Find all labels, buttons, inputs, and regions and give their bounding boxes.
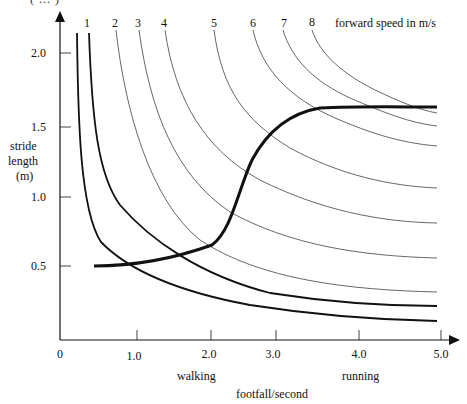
y-ticks <box>60 53 71 266</box>
speed-label-5: 5 <box>211 17 217 29</box>
curve-speed-6 <box>253 30 437 146</box>
curve-speed-2 <box>116 30 437 292</box>
curve-speed-8 <box>312 30 437 113</box>
speed-label-2: 2 <box>112 17 118 29</box>
speed-label-4: 4 <box>161 17 167 29</box>
x-tick-3.0: 3.0 <box>266 348 281 360</box>
y-tick-0.5: 0.5 <box>6 260 46 272</box>
x-tick-1.0: 1.0 <box>127 350 142 362</box>
speed-label-1: 1 <box>84 17 90 29</box>
y-tick-2.0: 2.0 <box>6 47 46 59</box>
x-axis-title: footfall/second <box>236 388 308 400</box>
y-axis-arrow-icon <box>55 11 65 22</box>
speed-label-6: 6 <box>250 17 256 29</box>
walking-annotation: walking <box>177 370 216 382</box>
x-tick-2.0: 2.0 <box>202 348 217 360</box>
chart-canvas <box>0 0 467 404</box>
x-tick-5.0: 5.0 <box>434 348 449 360</box>
iso-speed-curves <box>116 30 437 292</box>
x-ticks <box>137 330 441 340</box>
y-axis-title-line1: stride <box>10 140 37 152</box>
running-annotation: running <box>342 370 379 382</box>
y-tick-1.5: 1.5 <box>6 121 46 133</box>
speed-legend-title: forward speed in m/s <box>335 17 436 29</box>
y-axis-title-line2: length <box>8 155 38 167</box>
speed-label-7: 7 <box>281 17 287 29</box>
y-tick-1.0: 1.0 <box>6 191 46 203</box>
speed-label-3: 3 <box>135 17 141 29</box>
x-tick-0: 0 <box>57 348 63 360</box>
y-axis-title-line3: (m) <box>16 170 33 182</box>
x-tick-4.0: 4.0 <box>352 348 367 360</box>
x-axis-arrow-icon <box>449 335 460 345</box>
curve-speed-4 <box>165 30 437 223</box>
curve-speed-1 <box>77 33 437 321</box>
speed-label-8: 8 <box>309 16 315 28</box>
cropped-caption: ( ... ) <box>30 0 60 7</box>
